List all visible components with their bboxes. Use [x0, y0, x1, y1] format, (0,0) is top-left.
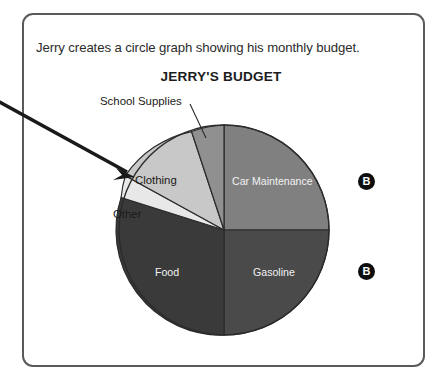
problem-prompt: Jerry creates a circle graph showing his…: [36, 40, 426, 55]
worksheet-border: [22, 13, 425, 367]
pie-label-school-supplies: School Supplies: [100, 95, 182, 107]
choice-badge-b-bottom[interactable]: B: [358, 263, 375, 280]
chart-title: JERRY'S BUDGET: [0, 69, 442, 84]
choice-badge-b-top[interactable]: B: [358, 173, 375, 190]
